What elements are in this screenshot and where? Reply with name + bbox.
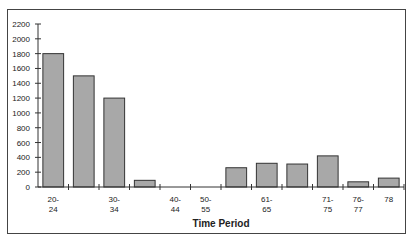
bar bbox=[104, 98, 125, 187]
y-tick-label: 200 bbox=[17, 168, 31, 177]
y-tick-label: 1800 bbox=[12, 50, 30, 59]
x-tick-label: 50- bbox=[200, 195, 212, 204]
bar bbox=[43, 54, 64, 187]
y-tick-label: 0 bbox=[26, 183, 31, 192]
x-tick-label: 30- bbox=[108, 195, 120, 204]
x-tick-label: 75 bbox=[323, 205, 332, 214]
y-tick-label: 1000 bbox=[12, 109, 30, 118]
y-tick-label: 2000 bbox=[12, 35, 30, 44]
y-tick-label: 600 bbox=[17, 139, 31, 148]
bar bbox=[256, 163, 277, 187]
x-tick-label: 77 bbox=[354, 205, 363, 214]
y-tick-label: 1200 bbox=[12, 94, 30, 103]
bar bbox=[348, 182, 369, 187]
x-tick-label: 40- bbox=[169, 195, 181, 204]
bar bbox=[226, 168, 247, 187]
bar bbox=[378, 178, 399, 187]
x-tick-label: 71- bbox=[322, 195, 334, 204]
y-tick-label: 1400 bbox=[12, 79, 30, 88]
bar-chart: 0200400600800100012001400160018002000220… bbox=[0, 0, 415, 249]
bar bbox=[73, 76, 94, 187]
bar bbox=[317, 156, 338, 187]
x-tick-label: 65 bbox=[262, 205, 271, 214]
x-axis-label: Time Period bbox=[192, 218, 249, 229]
bar bbox=[134, 180, 155, 187]
x-tick-label: 55 bbox=[201, 205, 210, 214]
x-tick-label: 76- bbox=[352, 195, 364, 204]
x-tick-label: 78 bbox=[384, 195, 393, 204]
x-tick-label: 61- bbox=[261, 195, 273, 204]
x-tick-label: 34 bbox=[110, 205, 119, 214]
y-tick-label: 1600 bbox=[12, 64, 30, 73]
x-tick-label: 24 bbox=[49, 205, 58, 214]
y-tick-label: 800 bbox=[17, 124, 31, 133]
y-tick-label: 400 bbox=[17, 153, 31, 162]
x-tick-label: 20- bbox=[47, 195, 59, 204]
bar bbox=[287, 164, 308, 187]
y-tick-label: 2200 bbox=[12, 20, 30, 29]
x-tick-label: 44 bbox=[171, 205, 180, 214]
